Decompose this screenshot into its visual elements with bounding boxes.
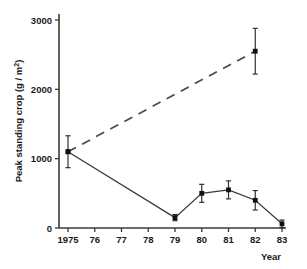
y-tick-label-0: 0 [47,223,52,234]
x-tick-label-1975: 1975 [57,234,79,245]
y-tick-label-3000: 3000 [31,15,52,26]
data-point-dashed-increasing-1982 [253,49,258,54]
data-point-solid-declining-1983 [280,221,285,226]
x-tick-label-79: 79 [170,234,181,245]
data-point-solid-declining-1980 [199,191,204,196]
data-point-solid-declining-1982 [253,198,258,203]
x-tick-label-77: 77 [116,234,127,245]
y-tick-label-2000: 2000 [31,84,52,95]
y-tick-label-1000: 1000 [31,153,52,164]
chart-container: 010002000300019757677787980818283YearPea… [0,0,307,269]
x-tick-label-80: 80 [196,234,207,245]
data-point-solid-declining-1979 [173,215,178,220]
peak-standing-crop-line-chart: 010002000300019757677787980818283YearPea… [0,0,307,269]
data-point-dashed-increasing-1975 [66,149,71,154]
x-axis-title: Year [261,251,281,262]
x-tick-label-76: 76 [89,234,100,245]
x-tick-label-78: 78 [143,234,154,245]
x-tick-label-81: 81 [223,234,234,245]
x-tick-label-83: 83 [277,234,288,245]
x-tick-label-82: 82 [250,234,261,245]
data-point-solid-declining-1981 [226,187,231,192]
series-line-dashed-increasing [68,51,255,152]
series-line-solid-declining [68,152,282,224]
y-axis-title: Peak standing crop (g / m2) [13,60,25,183]
